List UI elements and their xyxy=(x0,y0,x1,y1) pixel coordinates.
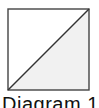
square-diagram xyxy=(0,0,99,108)
diagram-caption: Diagram 1 xyxy=(0,93,99,108)
diagram-figure: Diagram 1 xyxy=(0,0,99,108)
